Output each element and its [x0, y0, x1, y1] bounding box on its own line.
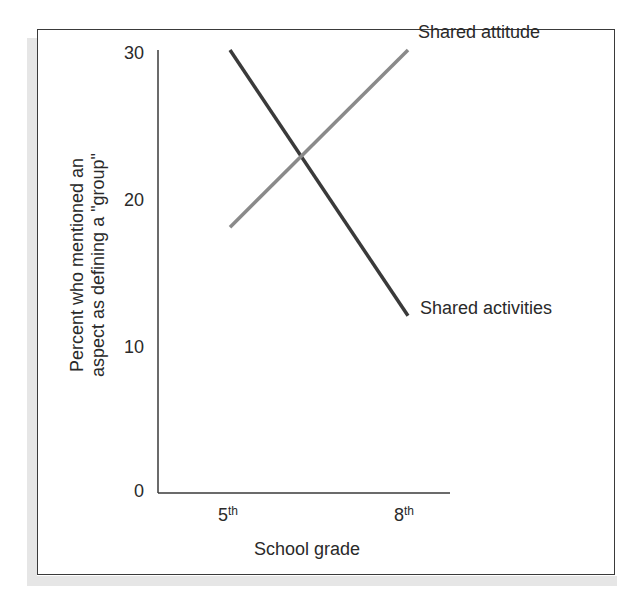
- y-tick-20: 20: [104, 190, 144, 211]
- y-axis-label-line-1: Percent who mentioned an: [67, 153, 88, 377]
- series-label-shared-activities: Shared activities: [420, 298, 552, 319]
- y-axis-label: Percent who mentioned an aspect as defin…: [67, 153, 109, 377]
- y-axis-label-line-2: aspect as defining a "group": [88, 153, 109, 377]
- y-tick-0: 0: [104, 481, 144, 502]
- x-axis-label: School grade: [254, 539, 360, 560]
- x-tick-8th: 8th: [394, 504, 414, 526]
- series-label-shared-attitude: Shared attitude: [418, 22, 540, 43]
- x-tick-5th: 5th: [218, 504, 238, 526]
- series-line-shared-activities: [230, 50, 408, 316]
- series-line-shared-attitude: [230, 50, 408, 227]
- y-tick-10: 10: [104, 337, 144, 358]
- y-tick-30: 30: [104, 43, 144, 64]
